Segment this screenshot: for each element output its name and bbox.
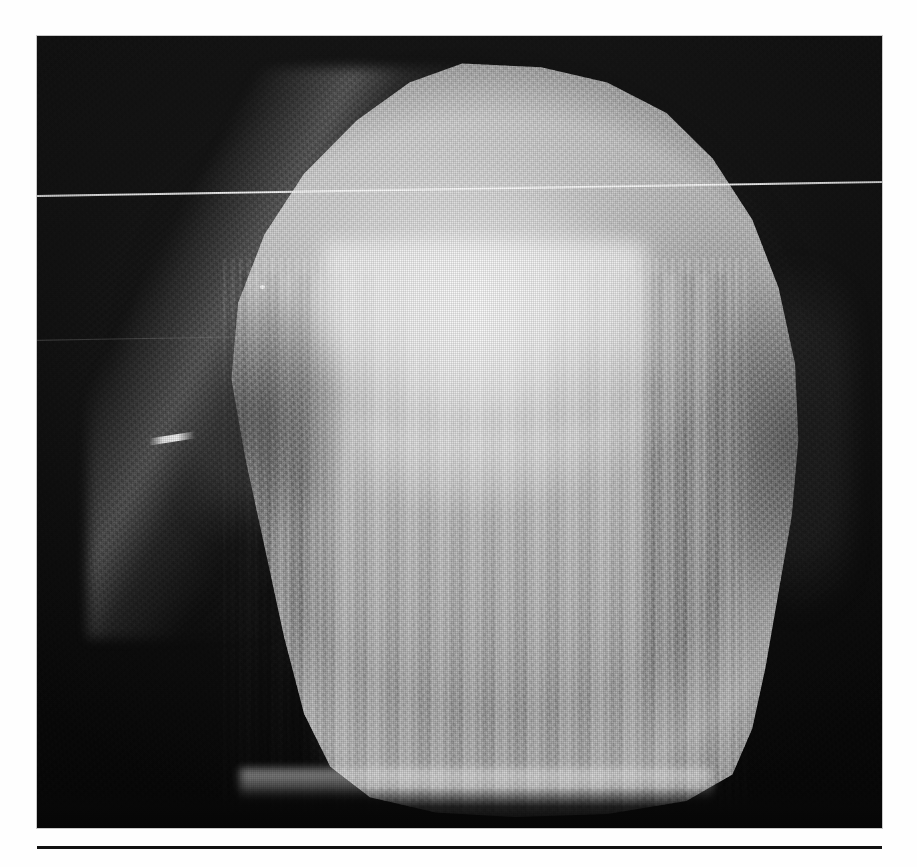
figure-page bbox=[0, 0, 917, 867]
radiograph-image bbox=[37, 36, 882, 828]
caption-rule bbox=[37, 846, 882, 849]
figure-caption bbox=[37, 855, 882, 867]
halftone-screen bbox=[37, 36, 882, 828]
figure-block bbox=[37, 36, 882, 828]
